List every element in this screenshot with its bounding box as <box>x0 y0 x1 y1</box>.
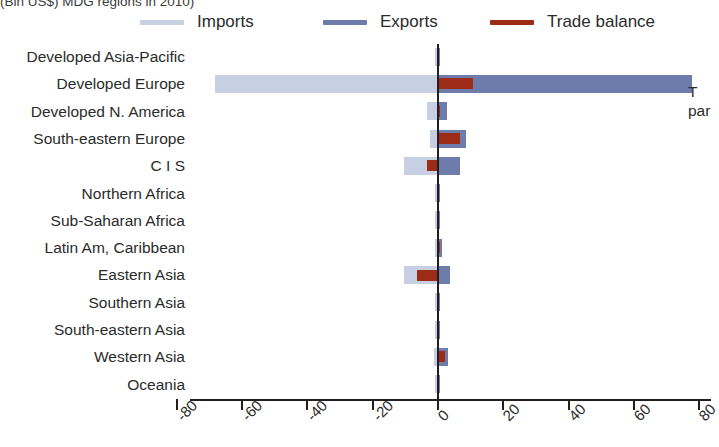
bar-exports <box>437 157 460 175</box>
right-clip-line-2: par <box>688 101 711 120</box>
legend-item-exports[interactable]: Exports <box>323 9 438 35</box>
legend-item-trade-balance[interactable]: Trade balance <box>490 9 655 35</box>
x-axis-tick-label: 0 <box>434 406 452 424</box>
bar-trade-balance <box>437 133 460 144</box>
bar-imports <box>430 130 437 148</box>
legend-item-imports[interactable]: Imports <box>140 9 254 35</box>
chart-row: Developed Asia-Pacific <box>190 44 711 69</box>
chart-legend: Imports Exports Trade balance <box>140 9 660 35</box>
zero-reference-line <box>437 44 439 401</box>
bar-trade-balance <box>427 160 437 171</box>
legend-label-trade-balance: Trade balance <box>547 12 655 32</box>
y-axis-label: Western Asia <box>2 344 185 369</box>
y-axis-label: Developed Europe <box>2 71 185 96</box>
legend-label-exports: Exports <box>380 12 438 32</box>
chart-row: Oceania <box>190 372 711 397</box>
bar-exports <box>437 75 692 93</box>
y-axis-label: Eastern Asia <box>2 262 185 287</box>
chart-row: Western Asia <box>190 344 711 369</box>
chart-row: Eastern Asia <box>190 262 711 287</box>
y-axis-label: Developed Asia-Pacific <box>2 44 185 69</box>
legend-swatch-exports-icon <box>323 20 367 25</box>
y-axis-label: South-eastern Asia <box>2 317 185 342</box>
y-axis-label: Oceania <box>2 372 185 397</box>
legend-label-imports: Imports <box>197 12 254 32</box>
y-axis-label: South-eastern Europe <box>2 126 185 151</box>
chart-row: South-eastern Asia <box>190 317 711 342</box>
plot-area: Developed Asia-PacificDeveloped EuropeDe… <box>190 44 711 399</box>
y-axis-label: C I S <box>2 153 185 178</box>
chart-row: Southern Asia <box>190 290 711 315</box>
y-axis-label: Developed N. America <box>2 99 185 124</box>
chart-row: Northern Africa <box>190 181 711 206</box>
bar-imports <box>427 102 437 120</box>
chart-row: South-eastern Europe <box>190 126 711 151</box>
chart-row: Latin Am, Caribbean <box>190 235 711 260</box>
y-axis-label: Latin Am, Caribbean <box>2 235 185 260</box>
y-axis-label: Southern Asia <box>2 290 185 315</box>
chart-row: Developed Europe <box>190 71 711 96</box>
y-axis-label: Northern Africa <box>2 181 185 206</box>
chart-row: Developed N. America <box>190 99 711 124</box>
legend-swatch-trade-balance-icon <box>490 20 534 25</box>
chart-row: C I S <box>190 153 711 178</box>
legend-swatch-imports-icon <box>140 20 184 25</box>
chart-row: Sub-Saharan Africa <box>190 208 711 233</box>
bar-imports <box>215 75 437 93</box>
y-axis-label: Sub-Saharan Africa <box>2 208 185 233</box>
right-clip-line-1: T <box>688 82 711 101</box>
right-edge-clipped-text: T par <box>688 82 711 122</box>
bar-trade-balance <box>437 78 473 89</box>
bar-trade-balance <box>417 270 437 281</box>
